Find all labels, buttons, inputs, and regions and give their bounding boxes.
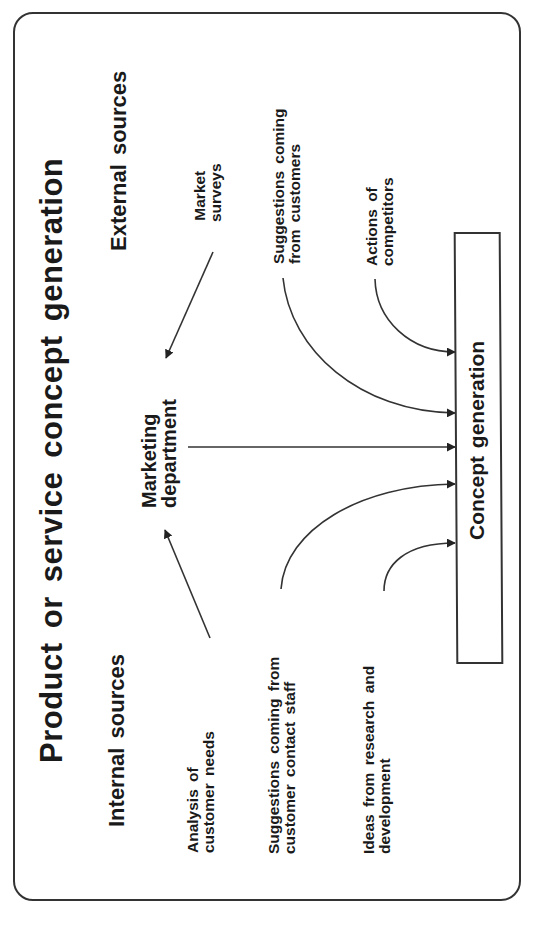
market-surveys-line2: surveys — [208, 163, 224, 228]
node-market-surveys: Market surveys — [192, 163, 224, 228]
competitors-line2: competitors — [380, 177, 396, 266]
staff-suggestions-line1: Suggestions coming from — [266, 657, 282, 854]
node-marketing-department: Marketing department — [139, 399, 179, 508]
node-competitors: Actions of competitors — [364, 177, 396, 266]
arrow-staff-suggestions-to-concept — [281, 484, 455, 589]
arrow-market-surveys-to-marketing — [166, 252, 213, 358]
internal-sources-heading: Internal sources — [104, 654, 130, 827]
arrow-competitors-to-concept — [375, 279, 455, 352]
diagram-title: Product or service concept generation — [34, 143, 70, 763]
market-surveys-line1: Market — [192, 163, 208, 228]
competitors-line1: Actions of — [364, 177, 380, 266]
external-sources-heading: External sources — [106, 71, 132, 251]
arrow-customer-needs-to-marketing — [165, 530, 210, 638]
rnd-line2: development — [377, 666, 393, 854]
marketing-line2: department — [159, 399, 179, 508]
arrow-customer-suggestions-to-concept — [283, 278, 455, 413]
arrow-rnd-to-concept — [384, 543, 455, 591]
customer-suggestions-line1: Suggestions coming — [271, 109, 287, 264]
marketing-line1: Marketing — [139, 399, 159, 508]
customer-suggestions-line2: from customers — [287, 109, 303, 264]
customer-needs-line2: customer needs — [201, 731, 217, 853]
rnd-line1: Ideas from research and — [361, 666, 377, 854]
node-customer-suggestions: Suggestions coming from customers — [271, 109, 303, 264]
node-customer-needs: Analysis of customer needs — [185, 731, 217, 853]
customer-needs-line1: Analysis of — [185, 731, 201, 853]
node-staff-suggestions: Suggestions coming from customer contact… — [266, 657, 298, 854]
concept-generation-label: Concept generation — [465, 341, 489, 540]
staff-suggestions-line2: customer contact staff — [282, 657, 298, 854]
node-rnd: Ideas from research and development — [361, 666, 393, 854]
